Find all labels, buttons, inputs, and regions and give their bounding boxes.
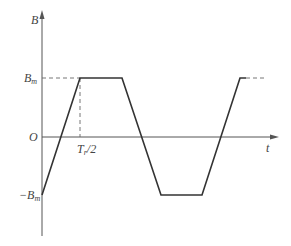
y-axis-label: B	[31, 13, 39, 27]
x-axis-arrow-icon	[270, 135, 279, 140]
half-period-label: Tr/2	[77, 142, 96, 157]
waveform-diagram: B t O Bm −Bm Tr/2	[0, 0, 291, 246]
origin-label: O	[29, 130, 38, 144]
bm-label: Bm	[24, 71, 37, 86]
neg-bm-label: −Bm	[19, 188, 40, 203]
x-axis-label: t	[266, 141, 270, 155]
y-axis	[40, 10, 45, 236]
y-axis-arrow-icon	[40, 10, 45, 19]
x-axis	[42, 135, 279, 140]
